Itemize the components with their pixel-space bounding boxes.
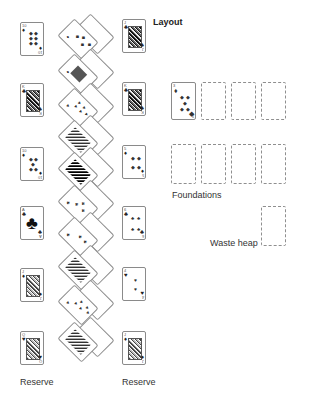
club-icon: ♣ — [137, 216, 140, 221]
diamond-icon: ◆ — [34, 167, 38, 172]
diamond-icon: ◆ — [85, 40, 92, 47]
club-icon: ♣ — [79, 200, 86, 207]
reserve-left-card-6[interactable]: Q ♥ ♥ Q — [20, 331, 44, 365]
reserve-right-card-5[interactable]: 4 ♥ ♥ ♥ ♥ 4 — [122, 267, 146, 301]
card-rank: K — [141, 110, 144, 114]
diamond-icon: ♦ — [65, 69, 71, 75]
diamond-icon: ◆ — [137, 156, 141, 161]
card-rank: 5 — [142, 173, 144, 177]
club-icon: ♣ — [82, 238, 89, 245]
foundation-slot-2[interactable] — [201, 82, 226, 120]
heart-icon: ♥ — [124, 272, 128, 278]
club-icon: ♣ — [26, 214, 38, 232]
ace-diamond-icon — [70, 66, 87, 83]
heart-icon: ♥ — [84, 309, 90, 315]
reserve-right-card-1[interactable]: J ♣ ♣ J — [122, 19, 146, 53]
diamond-icon: ◆ — [131, 156, 135, 161]
card-rank: Q — [39, 359, 42, 363]
heart-icon: ♥ — [65, 299, 71, 305]
card-rank: 3 — [192, 114, 194, 118]
club-icon: ♣ — [124, 211, 128, 217]
card-rank: J — [142, 359, 144, 363]
heart-icon: ♥ — [65, 102, 71, 108]
reserve-left-card-5[interactable]: J ♦ ♦ J — [20, 268, 44, 302]
card-rank: 4 — [142, 295, 144, 299]
reserve-left-card-4[interactable]: A ♣ ♣ ♣ A — [20, 206, 44, 240]
foundation-slot-8[interactable] — [261, 144, 286, 184]
foundation-1[interactable]: 3 ♦ ◆ ◆ ◆ ◆ ◆ ◆ 3 — [171, 82, 196, 120]
queen-face-icon — [65, 159, 90, 184]
diamond-icon: ◆ — [29, 167, 33, 172]
reserve-left-card-2[interactable]: K ♣ ♣ K — [20, 83, 44, 117]
reserve-left-label: Reserve — [20, 377, 54, 387]
jack-face-icon — [128, 338, 142, 360]
diamond-icon: ♦ — [22, 273, 25, 279]
club-icon: ♣ — [65, 231, 72, 238]
waste-heap-slot[interactable] — [261, 206, 286, 246]
jack-face-icon — [65, 257, 90, 282]
reserve-right-card-4[interactable]: 6 ♣ ♣ ♣ ♣ ♣ ♣ 6 — [122, 206, 146, 240]
heart-icon: ♥ — [134, 287, 137, 292]
foundation-slot-5[interactable] — [171, 144, 196, 184]
foundation-slot-7[interactable] — [231, 144, 256, 184]
club-icon: ♣ — [131, 216, 134, 221]
diamond-icon: ◆ — [29, 41, 33, 46]
diamond-icon: ♦ — [174, 88, 178, 93]
card-rank: J — [40, 296, 42, 300]
card-rank: 10 — [38, 50, 42, 54]
foundation-slot-6[interactable] — [201, 144, 226, 184]
card-rank: A — [39, 234, 42, 238]
jack-face-icon — [26, 275, 40, 297]
heart-icon: ♥ — [134, 278, 137, 283]
reserve-right-card-6[interactable]: J ♦ ♦ J — [122, 331, 146, 365]
card-rank: K — [39, 111, 42, 115]
card-rank: J — [142, 47, 144, 51]
diamond-icon: ◆ — [78, 40, 85, 47]
club-icon: ♣ — [65, 199, 72, 206]
club-icon: ♣ — [131, 227, 134, 232]
card-rank: 10 — [38, 175, 42, 179]
diamond-icon: ♦ — [22, 152, 25, 158]
diamond-icon: ♦ — [65, 34, 71, 40]
diamond-icon: ◆ — [180, 107, 184, 112]
diamond-icon: ◆ — [131, 165, 135, 170]
page-title: Layout — [153, 17, 183, 27]
diamond-icon: ♦ — [22, 27, 25, 33]
reserve-left-card-1[interactable]: 10 ♦ ◆ ◆ ◆ ◆ ◆ ◆ ♦ 10 — [20, 22, 44, 56]
king-face-icon — [65, 329, 90, 354]
waste-heap-label: Waste heap — [210, 238, 258, 248]
reserve-right-card-2[interactable]: K ♣ ♣ K — [122, 82, 146, 116]
reserve-left-card-3[interactable]: 10 ♦ ◆ ◆ ◆ ◆ ◆ ♦ 10 — [20, 147, 44, 181]
card-rank: 6 — [142, 234, 144, 238]
diamond-icon: ♦ — [124, 150, 127, 156]
diamond-icon: ♦ — [124, 336, 127, 342]
foundations-label: Foundations — [172, 190, 222, 200]
reserve-right-card-3[interactable]: 5 ♦ ◆ ◆ ◆ ◆ ♦ 5 — [122, 145, 146, 179]
club-icon: ♣ — [79, 207, 86, 214]
diamond-icon: ◆ — [34, 41, 38, 46]
foundation-slot-4[interactable] — [261, 82, 286, 120]
reserve-right-label: Reserve — [122, 377, 156, 387]
foundation-slot-3[interactable] — [231, 82, 256, 120]
